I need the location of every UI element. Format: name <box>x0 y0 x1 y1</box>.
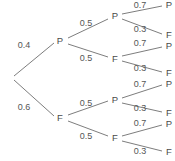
branch-probability-e-root-F: 0.6 <box>18 102 31 112</box>
branch-probability-e-root-P: 0.4 <box>18 40 31 50</box>
branch-probability-e-PP-P: 0.7 <box>134 0 147 10</box>
branch-probability-e-FP-F: 0.3 <box>134 103 147 113</box>
tree-node-n-FP: P <box>112 94 118 105</box>
branch-probability-e-P-PP: 0.5 <box>80 18 93 28</box>
tree-leaf-leaf-PPF: F <box>166 29 172 40</box>
branch-probability-e-PF-P: 0.7 <box>134 38 147 48</box>
tree-node-n-FF: F <box>112 132 118 143</box>
tree-node-n-PP: P <box>112 10 118 21</box>
tree-node-n-P: P <box>57 35 63 46</box>
tree-leaf-leaf-FPF: F <box>166 107 172 118</box>
tree-leaf-leaf-FPP: P <box>166 78 172 89</box>
tree-leaf-leaf-PPP: P <box>166 0 172 10</box>
tree-node-n-PF: F <box>112 53 118 64</box>
tree-leaf-leaf-FFF: F <box>166 146 172 157</box>
branch-probability-e-FF-F: 0.3 <box>134 146 147 156</box>
tree-leaf-leaf-PFP: P <box>166 40 172 51</box>
branch-probability-e-FP-P: 0.7 <box>134 79 147 89</box>
branch-probability-e-FF-P: 0.7 <box>134 118 147 128</box>
branch-probability-e-F-FF: 0.5 <box>80 131 93 141</box>
branch-probability-e-PP-F: 0.3 <box>134 24 147 34</box>
branch-probability-e-F-FP: 0.5 <box>80 98 93 108</box>
tree-leaf-leaf-PFF: F <box>166 67 172 78</box>
probability-tree-diagram: PFPFPF PFPFPFPF 0.40.60.50.50.50.50.70.3… <box>0 0 175 161</box>
branch-probability-e-P-PF: 0.5 <box>80 53 93 63</box>
branch-probability-e-PF-F: 0.3 <box>134 63 147 73</box>
tree-leaf-leaf-FFP: P <box>166 118 172 129</box>
tree-node-n-F: F <box>57 112 63 123</box>
